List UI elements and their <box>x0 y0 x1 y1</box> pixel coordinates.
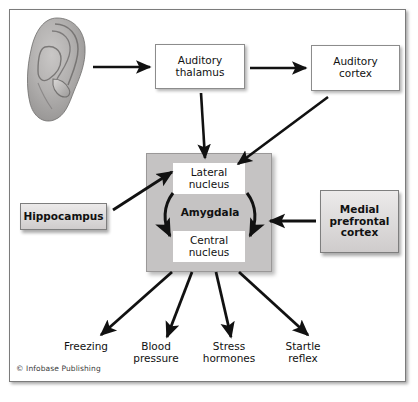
output-label-blood-pressure: Blood pressure <box>123 340 189 364</box>
label-line-2: nucleus <box>189 178 230 190</box>
label-line-1: Auditory <box>178 54 223 66</box>
label-line-1: Lateral <box>191 166 228 178</box>
node-hippocampus: Hippocampus <box>20 203 107 230</box>
node-auditory-cortex: Auditory cortex <box>311 45 400 91</box>
label-line-1: Auditory <box>333 55 378 67</box>
label-line-1: Central <box>190 234 228 246</box>
label-line-2: pressure <box>133 352 178 364</box>
label-line-2: nucleus <box>189 246 230 258</box>
node-lateral-nucleus: Lateral nucleus <box>173 163 245 194</box>
node-lateral-nucleus-label: Lateral nucleus <box>189 167 230 191</box>
label-line-1: Medial <box>340 203 379 215</box>
output-label-freezing: Freezing <box>50 340 122 352</box>
output-label-stress-hormones: Stress hormones <box>190 340 268 364</box>
label-line-2: hormones <box>203 352 255 364</box>
node-auditory-cortex-label: Auditory cortex <box>333 56 378 80</box>
label-line-2: cortex <box>339 67 372 79</box>
label-line-3: cortex <box>341 226 379 238</box>
node-medial-prefrontal-cortex-label: Medial prefrontal cortex <box>330 204 390 240</box>
ear-icon <box>24 17 90 122</box>
label-line-1: Stress <box>213 340 245 352</box>
label-line-1: Blood <box>141 340 171 352</box>
node-auditory-thalamus: Auditory thalamus <box>155 44 245 89</box>
node-amygdala-label: Amygdala <box>147 206 273 218</box>
label-line-2: reflex <box>288 352 318 364</box>
label-line-2: thalamus <box>176 66 225 78</box>
node-amygdala: Lateral nucleus Amygdala Central nucleus <box>146 153 272 272</box>
copyright-notice: © Infobase Publishing <box>16 364 101 373</box>
label-line-1: Startle <box>285 340 320 352</box>
ear-image <box>24 17 90 122</box>
label-line-2: prefrontal <box>330 215 390 227</box>
node-medial-prefrontal-cortex: Medial prefrontal cortex <box>320 190 399 253</box>
node-hippocampus-label: Hippocampus <box>23 211 103 223</box>
node-auditory-thalamus-label: Auditory thalamus <box>176 55 225 79</box>
node-central-nucleus: Central nucleus <box>173 231 245 262</box>
node-central-nucleus-label: Central nucleus <box>189 235 230 259</box>
label-line-1: Freezing <box>64 340 108 352</box>
output-label-startle-reflex: Startle reflex <box>269 340 337 364</box>
figure-root: Auditory thalamus Auditory cortex Hippoc… <box>0 0 418 402</box>
